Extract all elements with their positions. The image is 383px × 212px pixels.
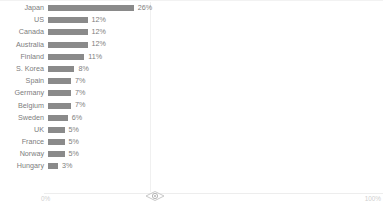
bar-track: 3% — [48, 163, 378, 169]
bar-track: 26% — [48, 5, 378, 11]
bar-row: Finland11% — [0, 51, 383, 63]
bar-value-label: 3% — [62, 160, 72, 172]
category-label: S. Korea — [0, 63, 44, 75]
bar-value-label: 26% — [138, 2, 152, 14]
category-label: Belgium — [0, 100, 44, 112]
category-label: UK — [0, 124, 44, 136]
category-label: Spain — [0, 75, 44, 87]
bar-value-label: 5% — [69, 136, 79, 148]
bar-track: 12% — [48, 29, 378, 35]
bar-value-label: 12% — [92, 26, 106, 38]
category-label: Australia — [0, 39, 44, 51]
bar-track: 6% — [48, 115, 378, 121]
bar-track: 7% — [48, 103, 378, 109]
bar[interactable] — [48, 127, 65, 133]
bar-track: 7% — [48, 90, 378, 96]
category-label: Finland — [0, 51, 44, 63]
bar-row: Canada12% — [0, 26, 383, 38]
bar[interactable] — [48, 54, 84, 60]
bar[interactable] — [48, 115, 68, 121]
x-axis-tick-max: 100% — [365, 195, 381, 203]
bar-row: S. Korea8% — [0, 63, 383, 75]
bar[interactable] — [48, 151, 65, 157]
bar-value-label: 8% — [78, 63, 88, 75]
bar[interactable] — [48, 29, 88, 35]
bar[interactable] — [48, 90, 71, 96]
category-label: Norway — [0, 148, 44, 160]
bar-value-label: 6% — [72, 112, 82, 124]
bar-row: Australia12% — [0, 39, 383, 51]
bar[interactable] — [48, 42, 88, 48]
category-label: France — [0, 136, 44, 148]
bar-row: Spain7% — [0, 75, 383, 87]
bar-row: US12% — [0, 14, 383, 26]
bar-track: 5% — [48, 139, 378, 145]
bar[interactable] — [48, 17, 88, 23]
bar[interactable] — [48, 5, 134, 11]
category-label: US — [0, 14, 44, 26]
bar-value-label: 5% — [69, 124, 79, 136]
bar-row-list: Japan26%US12%Canada12%Australia12%Finlan… — [0, 2, 383, 173]
plot-area: Japan26%US12%Canada12%Australia12%Finlan… — [0, 2, 383, 192]
bar-row: Norway5% — [0, 148, 383, 160]
category-label: Hungary — [0, 160, 44, 172]
bar-value-label: 7% — [75, 87, 85, 99]
bar-row: Belgium7% — [0, 100, 383, 112]
bar-row: Japan26% — [0, 2, 383, 14]
bar[interactable] — [48, 103, 71, 109]
bar-chart: Japan26%US12%Canada12%Australia12%Finlan… — [0, 0, 383, 212]
bar-row: France5% — [0, 136, 383, 148]
category-label: Canada — [0, 26, 44, 38]
bar-track: 5% — [48, 127, 378, 133]
x-axis-tick-min: 0% — [41, 195, 50, 203]
bar-value-label: 5% — [69, 148, 79, 160]
bar-row: Hungary3% — [0, 160, 383, 172]
bar-track: 11% — [48, 54, 378, 60]
category-label: Germany — [0, 87, 44, 99]
category-label: Japan — [0, 2, 44, 14]
bar-value-label: 12% — [92, 14, 106, 26]
bar[interactable] — [48, 139, 65, 145]
bar-track: 8% — [48, 66, 378, 72]
bar-value-label: 7% — [75, 99, 85, 111]
bar-value-label: 7% — [75, 75, 85, 87]
bar-row: Germany7% — [0, 87, 383, 99]
bar-track: 12% — [48, 42, 378, 48]
bar-track: 7% — [48, 78, 378, 84]
axis-slider-handle-icon[interactable] — [143, 190, 167, 202]
bar-track: 5% — [48, 151, 378, 157]
bar-value-label: 12% — [92, 38, 106, 50]
bar-row: Sweden6% — [0, 112, 383, 124]
category-label: Sweden — [0, 112, 44, 124]
bar-track: 12% — [48, 17, 378, 23]
bar[interactable] — [48, 163, 58, 169]
bar-value-label: 11% — [88, 51, 102, 63]
bar[interactable] — [48, 66, 74, 72]
top-divider — [0, 0, 383, 1]
bar[interactable] — [48, 78, 71, 84]
x-axis-line — [44, 193, 383, 194]
bar-row: UK5% — [0, 124, 383, 136]
